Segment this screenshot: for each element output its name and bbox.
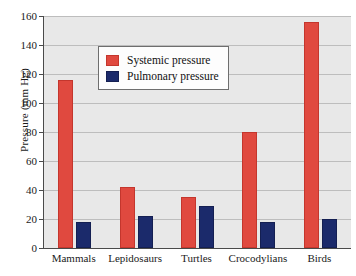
y-tick-label: 80 [26,126,37,138]
legend-swatch-systemic-icon [106,55,119,66]
legend-label-systemic: Systemic pressure [127,54,210,66]
y-tick-mark [39,45,44,46]
bar-systemic [120,187,135,248]
y-tick-mark [39,190,44,191]
x-tick-label: Lepidosaurs [108,252,162,264]
y-tick-mark [39,103,44,104]
bar-pulmonary [322,219,337,248]
bar-systemic [242,132,257,248]
bar-systemic [304,22,319,248]
legend: Systemic pressure Pulmonary pressure [98,46,229,90]
y-tick-mark [39,161,44,162]
y-tick-label: 160 [21,10,38,22]
y-tick-label: 40 [26,184,37,196]
bar-systemic [58,80,73,248]
x-tick-label: Birds [307,252,331,264]
y-tick-label: 140 [21,39,38,51]
y-tick-mark [39,16,44,17]
legend-swatch-pulmonary-icon [106,71,119,82]
x-tick-label: Mammals [52,252,96,264]
y-tick-mark [39,248,44,249]
y-tick-label: 20 [26,213,37,225]
bar-pulmonary [138,216,153,248]
legend-label-pulmonary: Pulmonary pressure [127,70,219,82]
y-tick-label: 60 [26,155,37,167]
x-tick-label: Turtles [181,252,212,264]
legend-item-systemic: Systemic pressure [106,52,219,68]
gridline [44,16,351,17]
bar-pulmonary [76,222,91,248]
y-tick-label: 100 [21,97,38,109]
legend-item-pulmonary: Pulmonary pressure [106,68,219,84]
bar-systemic [181,197,196,248]
y-tick-mark [39,219,44,220]
bar-pulmonary [199,206,214,248]
x-tick-label: Crocodylians [229,252,288,264]
bar-chart: Pressure (mm Hg) 020406080100120140160 M… [0,0,356,276]
bar-pulmonary [260,222,275,248]
y-tick-label: 120 [21,68,38,80]
y-tick-mark [39,132,44,133]
y-tick-mark [39,74,44,75]
y-tick-label: 0 [32,242,38,254]
